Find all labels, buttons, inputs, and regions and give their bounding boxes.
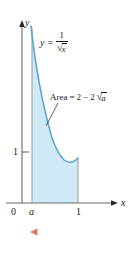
- x-axis-arrowhead: [111, 200, 118, 206]
- sqrt-group: √ x: [57, 43, 67, 54]
- x-axis-label: x: [121, 198, 125, 208]
- curve-equation-variable: y: [40, 38, 44, 48]
- area-annotation-word: Area: [50, 93, 68, 102]
- curve-equation-label: y = 1 √ x: [40, 31, 68, 54]
- area-sqrt-group: √ a: [97, 92, 107, 103]
- origin-label: 0: [11, 207, 16, 217]
- x-tick-label-a: a: [29, 207, 34, 217]
- curve-equation-denominator: √ x: [56, 42, 68, 54]
- curve-equation-fraction: 1 √ x: [56, 31, 68, 54]
- left-arrow-head-icon: [30, 228, 38, 235]
- y-tick-label-1: 1: [13, 147, 18, 157]
- annotation-leader-line: [46, 103, 58, 126]
- area-under-curve-figure: y x 0 a 1 1 y = 1 √ x Area = 2 − 2 √: [0, 0, 132, 255]
- y-axis-label: y: [25, 18, 29, 28]
- area-annotation-equals: =: [70, 93, 75, 102]
- curve-equation-equals: =: [47, 38, 53, 48]
- area-radicand: a: [101, 92, 107, 103]
- area-annotation-minus: −: [83, 93, 88, 102]
- x-tick-label-1: 1: [76, 207, 81, 217]
- curve-equation-numerator: 1: [58, 31, 67, 41]
- radicand: x: [62, 43, 67, 54]
- area-annotation-label: Area = 2 − 2 √ a: [50, 92, 107, 103]
- y-axis-arrowhead: [19, 20, 25, 27]
- area-annotation-term1: 2: [77, 93, 82, 102]
- area-annotation-coefficient: 2: [90, 93, 95, 102]
